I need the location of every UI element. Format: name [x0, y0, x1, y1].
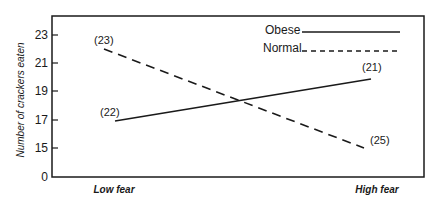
x-label-high-fear: High fear [355, 184, 399, 195]
y-axis: 23 21 19 17 15 0 [35, 28, 58, 184]
series-obese-line [115, 79, 371, 121]
y-tick-15: 15 [35, 141, 49, 155]
legend-label-normal: Normal [263, 41, 302, 55]
y-tick-19: 19 [35, 84, 49, 98]
annotation-normal-low: (23) [94, 34, 114, 46]
chart: 23 21 19 17 15 0 Number of crackers eate… [0, 0, 441, 206]
legend: Obese Normal [263, 23, 400, 55]
x-label-low-fear: Low fear [93, 184, 135, 195]
y-tick-0: 0 [41, 170, 48, 184]
annotation-obese-high: (21) [362, 61, 382, 73]
annotation-normal-high: (25) [370, 134, 390, 146]
y-axis-label: Number of crackers eaten [15, 42, 26, 157]
annotation-obese-low: (22) [100, 106, 120, 118]
legend-label-obese: Obese [265, 23, 301, 37]
series-normal-line [104, 49, 364, 148]
y-tick-23: 23 [35, 28, 49, 42]
y-tick-17: 17 [35, 113, 49, 127]
y-tick-21: 21 [35, 56, 49, 70]
